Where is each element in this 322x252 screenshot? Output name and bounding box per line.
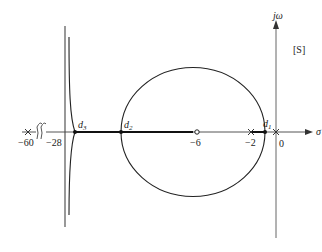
zero-label-minus6: −6	[190, 137, 201, 148]
breakaway-point-d1	[263, 130, 267, 134]
plane-label: [S]	[293, 44, 305, 55]
pole-label-minus60: −60	[18, 137, 34, 148]
pole-label-minus2: −2	[245, 137, 256, 148]
locus-branch-d3	[69, 37, 75, 215]
imag-axis	[273, 20, 279, 238]
breakaway-label-d3: d3	[78, 119, 87, 132]
jw-arrow-icon	[273, 20, 279, 29]
jw-axis-label: jω	[271, 10, 283, 21]
breakaway-point-d3	[73, 130, 77, 134]
sigma-arrow-icon	[305, 129, 313, 135]
axis-break-icon	[37, 123, 46, 139]
breakaway-label-d2: d2	[124, 119, 133, 132]
breakaway-point-d2	[119, 130, 123, 134]
zero-marker-icon	[195, 130, 199, 134]
tick-label-minus28: −28	[46, 137, 62, 148]
root-locus-diagram: −60 −28 −6 −2 0 d3 d2 d1 σ jω [S]	[0, 0, 322, 252]
sigma-axis-label: σ	[316, 126, 322, 137]
breakaway-label-d1: d1	[263, 118, 272, 131]
pole-label-0: 0	[279, 138, 284, 149]
